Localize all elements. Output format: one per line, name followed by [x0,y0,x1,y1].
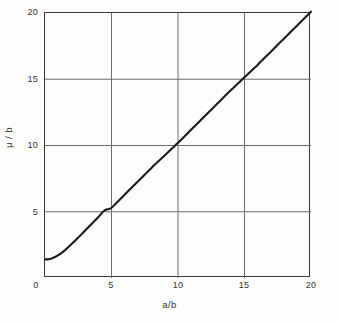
x-axis-title: a/b [0,299,339,310]
y-tick-label-20: 20 [12,7,38,17]
x-tick-label-5: 5 [108,280,113,290]
y-tick-label-10: 10 [12,140,38,150]
y-tick-label-15: 15 [12,74,38,84]
x-tick-label-20: 20 [306,280,317,290]
x-tick-label-15: 15 [239,280,250,290]
y-axis-title: μ / b [3,114,14,162]
x-tick-label-0: 0 [33,280,38,290]
series-curve-path [45,12,311,260]
y-tick-label-5: 5 [12,207,38,217]
plot-area [44,12,310,277]
data-curve [45,13,311,278]
x-tick-label-10: 10 [173,280,184,290]
figure-container: 20 15 10 5 0 5 10 15 20 a/b μ / b [0,0,339,322]
